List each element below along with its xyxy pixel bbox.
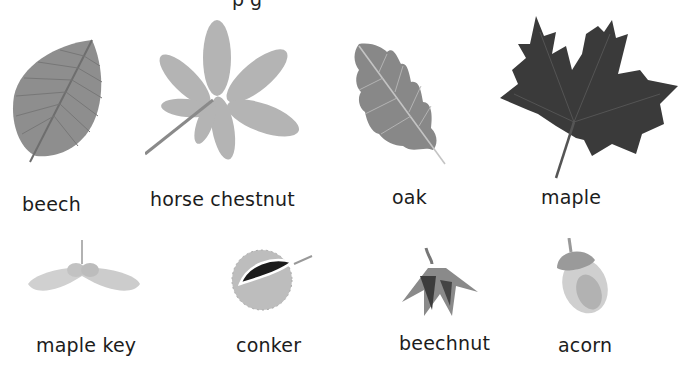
oak-label: oak [392, 186, 427, 208]
beechnut-icon [398, 246, 482, 318]
beech-leaf-icon [8, 36, 104, 166]
beech-label: beech [22, 193, 81, 215]
maple-key-icon [24, 240, 142, 300]
maple-label: maple [541, 186, 601, 208]
acorn-label: acorn [558, 334, 612, 356]
title-fragment: p g [232, 0, 262, 10]
beechnut-label: beechnut [399, 332, 490, 354]
horse-chestnut-leaf-icon [145, 18, 305, 163]
maple-key-label: maple key [36, 334, 136, 356]
horse-chestnut-label: horse chestnut [150, 188, 295, 210]
maple-leaf-icon [500, 14, 682, 180]
oak-leaf-icon [353, 42, 449, 166]
conker-icon [228, 244, 316, 314]
acorn-icon [555, 238, 611, 314]
conker-label: conker [236, 334, 301, 356]
